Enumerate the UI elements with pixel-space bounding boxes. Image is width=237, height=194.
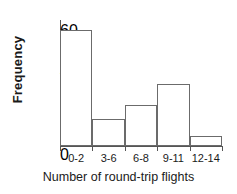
- y-axis-title: Frequency: [10, 22, 25, 118]
- histogram-bar: [92, 119, 124, 146]
- x-tick-label: 6-8: [125, 152, 157, 164]
- x-tick-label: 3-6: [92, 152, 124, 164]
- histogram-bar: [125, 105, 157, 146]
- x-tick-mark: [60, 146, 61, 151]
- x-axis-line: [60, 146, 223, 147]
- x-tick-mark: [125, 146, 126, 151]
- x-tick-mark: [190, 146, 191, 151]
- x-tick-label: 0-2: [60, 152, 92, 164]
- histogram-bar: [60, 30, 92, 146]
- histogram-chart: Frequency 0102030405060 0-23-66-89-1112-…: [0, 0, 237, 194]
- x-tick-mark: [222, 146, 223, 151]
- x-tick-label: 9-11: [157, 152, 189, 164]
- x-axis-title: Number of round-trip flights: [0, 170, 237, 184]
- histogram-bar: [157, 84, 189, 146]
- histogram-bar: [190, 136, 222, 146]
- x-tick-mark: [157, 146, 158, 151]
- x-tick-label: 12-14: [190, 152, 222, 164]
- x-tick-mark: [92, 146, 93, 151]
